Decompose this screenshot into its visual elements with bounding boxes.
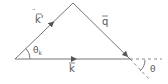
k-prime-label: k' <box>35 14 44 25</box>
theta-label: θ <box>150 64 156 74</box>
q-extension-dashed <box>130 59 150 80</box>
vector-q-line <box>73 3 130 59</box>
vector-triangle-diagram: k' ⃗ q k θk θ <box>0 0 168 84</box>
theta-k-arc <box>26 49 30 60</box>
q-label: q <box>102 16 108 27</box>
k-label: k <box>69 63 75 74</box>
theta-arc <box>140 60 145 71</box>
theta-k-label: θk <box>33 45 43 56</box>
diagram-canvas: k' ⃗ q k θk θ <box>0 0 168 84</box>
vector-k-prime-line <box>15 3 73 59</box>
k-prime-overarrow: ⃗ <box>31 8 35 11</box>
